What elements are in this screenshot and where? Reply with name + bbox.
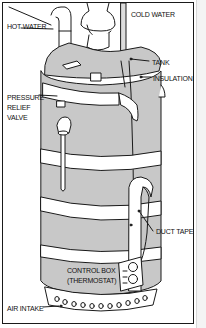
- label-hot-water: HOT WATER: [7, 22, 46, 31]
- label-control-box-line1: CONTROL BOX: [67, 266, 116, 275]
- label-air-intake: AIR INTAKE: [7, 304, 43, 313]
- label-tank: TANK: [152, 58, 169, 67]
- label-pressure-relief-valve-line3: VALVE: [7, 113, 28, 122]
- label-control-box-line2: (THERMOSTAT): [67, 276, 116, 285]
- page-edge-strip: [196, 0, 206, 328]
- label-pressure-relief-valve-line2: RELIEF: [7, 103, 30, 112]
- label-duct-tape: DUCT TAPE: [156, 227, 193, 236]
- label-cold-water: COLD WATER: [131, 10, 175, 19]
- label-insulation: INSULATION: [153, 74, 193, 83]
- label-pressure-relief-valve-line1: PRESSURE: [7, 93, 44, 102]
- diagram-frame: HOT WATER COLD WATER TANK INSULATION PRE…: [2, 2, 194, 324]
